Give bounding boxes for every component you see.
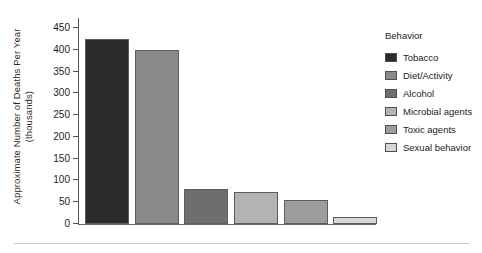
y-tick-mark <box>73 136 79 137</box>
bar <box>333 217 377 224</box>
y-tick-mark <box>73 27 79 28</box>
legend-item: Sexual behavior <box>385 138 481 156</box>
y-tick-label: 0 <box>64 218 70 229</box>
x-axis-baseline <box>78 224 376 225</box>
bar <box>184 189 228 224</box>
y-tick-label: 250 <box>53 109 70 120</box>
plot-area: 450400350300250200150100500 <box>78 18 376 225</box>
legend-swatch-icon <box>385 89 397 98</box>
y-tick-mark <box>73 158 79 159</box>
bar <box>284 200 328 224</box>
legend-title: Behavior <box>385 30 481 41</box>
legend-item: Microbial agents <box>385 102 481 120</box>
y-tick-label: 100 <box>53 174 70 185</box>
legend-item: Diet/Activity <box>385 66 481 84</box>
legend-items: TobaccoDiet/ActivityAlcoholMicrobial age… <box>385 48 481 156</box>
legend-item: Alcohol <box>385 84 481 102</box>
y-tick-mark <box>73 49 79 50</box>
y-tick-label: 50 <box>59 196 70 207</box>
legend-item-label: Toxic agents <box>403 124 456 135</box>
bar <box>135 50 179 224</box>
y-axis-title-line1: Approximate Number of Deaths Per Year <box>12 28 23 204</box>
y-tick-label: 300 <box>53 87 70 98</box>
y-axis-title: Approximate Number of Deaths Per Year (t… <box>0 0 46 232</box>
y-tick-mark <box>73 223 79 224</box>
legend: Behavior TobaccoDiet/ActivityAlcoholMicr… <box>385 30 481 156</box>
legend-item-label: Tobacco <box>403 52 438 63</box>
legend-swatch-icon <box>385 107 397 116</box>
legend-swatch-icon <box>385 143 397 152</box>
bar <box>85 39 129 224</box>
y-tick-label: 450 <box>53 22 70 33</box>
y-tick-mark <box>73 114 79 115</box>
y-tick-mark <box>73 71 79 72</box>
legend-swatch-icon <box>385 125 397 134</box>
legend-item-label: Microbial agents <box>403 106 472 117</box>
bar-chart-figure: Approximate Number of Deaths Per Year (t… <box>0 0 482 253</box>
legend-item: Toxic agents <box>385 120 481 138</box>
y-tick-label: 150 <box>53 152 70 163</box>
y-tick-label: 200 <box>53 130 70 141</box>
legend-item-label: Diet/Activity <box>403 70 453 81</box>
y-axis-title-line2: (thousands) <box>23 28 35 204</box>
legend-swatch-icon <box>385 53 397 62</box>
legend-swatch-icon <box>385 71 397 80</box>
y-tick-label: 350 <box>53 65 70 76</box>
legend-item: Tobacco <box>385 48 481 66</box>
y-tick-mark <box>73 179 79 180</box>
bar <box>234 192 278 224</box>
bottom-divider <box>14 243 469 244</box>
legend-item-label: Alcohol <box>403 88 434 99</box>
y-tick-mark <box>73 201 79 202</box>
y-tick-label: 400 <box>53 43 70 54</box>
y-tick-mark <box>73 92 79 93</box>
legend-item-label: Sexual behavior <box>403 142 471 153</box>
